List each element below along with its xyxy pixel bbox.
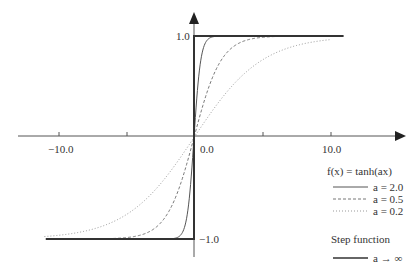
legend-label-a02: a = 0.2 (373, 205, 403, 217)
curve-a-0-2 (44, 40, 330, 237)
x-tick-label-neg10: −10.0 (48, 143, 74, 155)
axes: −10.0 0.0 10.0 1.0 −1.0 (18, 12, 406, 257)
x-axis-arrow-icon (395, 131, 406, 141)
x-tick-label-10: 10.0 (322, 143, 342, 155)
y-axis-arrow-icon (189, 12, 199, 24)
legend-step-title: Step function (331, 233, 390, 245)
legend-label-a05: a = 0.5 (373, 193, 404, 205)
legend-title: f(x) = tanh(ax) (327, 165, 392, 178)
y-tick-label-1: 1.0 (176, 30, 190, 42)
legend-label-step: a → ∞ (373, 252, 402, 264)
legend-label-a2: a = 2.0 (373, 181, 404, 193)
legend: f(x) = tanh(ax) a = 2.0 a = 0.5 a = 0.2 … (327, 165, 404, 264)
curve-a- (46, 36, 344, 239)
tanh-chart: −10.0 0.0 10.0 1.0 −1.0 f(x) = tanh(ax) … (0, 0, 418, 274)
x-tick-label-0: 0.0 (200, 143, 214, 155)
curves (44, 36, 343, 239)
y-tick-label-neg1: −1.0 (199, 233, 219, 245)
